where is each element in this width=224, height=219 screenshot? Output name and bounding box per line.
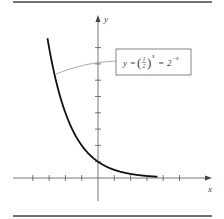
frac-num: 1 [143, 56, 146, 62]
right-paren: ) [147, 55, 151, 70]
x-axis-label: x [207, 184, 212, 194]
label-leader-line [56, 61, 116, 74]
label-eq1: = [130, 58, 135, 68]
function-label-box: y = ( 1 2 ) x = 2 −x [116, 49, 191, 75]
y-axis-arrow-icon [96, 15, 101, 22]
exponential-graph: x y y = ( 1 2 ) x = 2 −x [0, 0, 224, 219]
y-axis-label: y [103, 14, 108, 24]
left-paren: ( [137, 55, 141, 70]
exp-x: x [151, 53, 155, 59]
label-y: y [122, 58, 127, 68]
frac-den: 2 [143, 63, 146, 69]
y-axis [95, 15, 101, 201]
x-axis-arrow-icon [205, 176, 212, 181]
x-axis [13, 175, 212, 181]
label-eq2: = [158, 58, 164, 68]
svg-text:y =: y = [122, 58, 135, 68]
exp-neg-x: −x [172, 55, 179, 61]
